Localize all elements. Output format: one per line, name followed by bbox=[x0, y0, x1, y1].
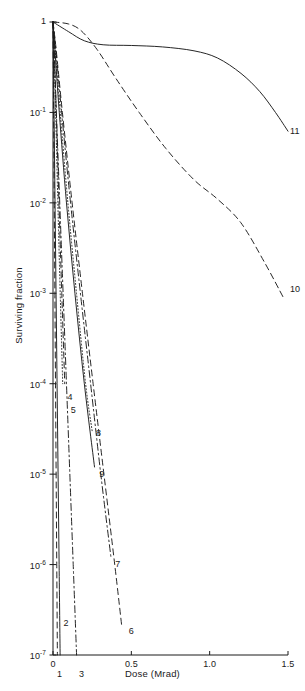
curve-label-10: 10 bbox=[290, 284, 300, 294]
y-tick-label-1: 10-1 bbox=[6, 106, 46, 118]
curve-6 bbox=[53, 22, 122, 628]
curve-label-4: 4 bbox=[68, 392, 73, 402]
data-curves bbox=[53, 22, 288, 655]
y-tick-label-3: 10-3 bbox=[6, 287, 46, 299]
x-tick-label-1: 0.5 bbox=[114, 659, 148, 669]
y-tick-label-0: 1 bbox=[6, 16, 46, 26]
x-tick-label-2: 1.0 bbox=[193, 659, 227, 669]
y-tick-label-4: 10-4 bbox=[6, 378, 46, 390]
curve-label-6: 6 bbox=[129, 626, 134, 636]
curve-label-1: 1 bbox=[57, 669, 62, 679]
curve-label-9: 9 bbox=[99, 469, 104, 479]
curve-label-3: 3 bbox=[79, 669, 84, 679]
survival-curve-figure: Surviving fraction Dose (Mrad) 110-110-2… bbox=[0, 0, 305, 691]
plot-area bbox=[0, 0, 305, 691]
y-tick-label-2: 10-2 bbox=[6, 197, 46, 209]
x-tick-label-3: 1.5 bbox=[271, 659, 305, 669]
curve-label-7: 7 bbox=[115, 559, 120, 569]
curve-10 bbox=[53, 22, 283, 297]
y-axis-title: Surviving fraction bbox=[13, 236, 24, 376]
y-tick-label-6: 10-6 bbox=[6, 559, 46, 571]
axes-lines bbox=[53, 22, 288, 655]
x-axis-title: Dose (Mrad) bbox=[0, 668, 305, 679]
y-tick-label-5: 10-5 bbox=[6, 468, 46, 480]
curve-label-8: 8 bbox=[96, 428, 101, 438]
curve-label-5: 5 bbox=[71, 405, 76, 415]
curve-label-11: 11 bbox=[290, 126, 300, 136]
x-tick-label-0: 0 bbox=[36, 659, 70, 669]
curve-label-2: 2 bbox=[64, 618, 69, 628]
curve-9 bbox=[53, 22, 95, 467]
